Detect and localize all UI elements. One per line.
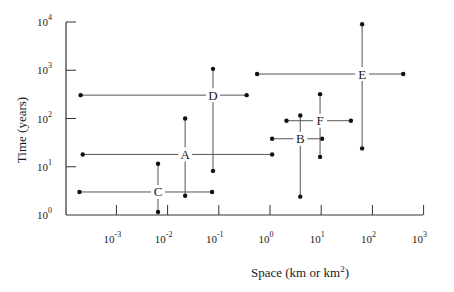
series-label: F: [316, 113, 323, 128]
series-f: F: [284, 92, 353, 159]
range-endpoint-dot: [284, 119, 288, 123]
series-a: A: [81, 116, 275, 198]
x-tick-label: 102: [361, 230, 376, 245]
range-endpoint-dot: [81, 152, 85, 156]
series-c: C: [77, 162, 214, 215]
x-tick-label: 101: [310, 230, 325, 245]
y-axis-label: Time (years): [14, 97, 30, 163]
x-axis-label: Space (km or km2): [251, 264, 349, 281]
range-endpoint-dot: [401, 72, 405, 76]
range-endpoint-dot: [298, 194, 302, 198]
range-endpoint-dot: [270, 152, 274, 156]
range-chart: 100101102103104 10-310-210-1100101102103…: [0, 0, 454, 292]
series-d: D: [78, 67, 248, 173]
range-endpoint-dot: [318, 92, 322, 96]
x-tick-label: 10-3: [104, 230, 122, 245]
axes: [66, 22, 423, 215]
data-series: ABCDEF: [77, 22, 405, 214]
x-tick-label: 10-2: [155, 230, 173, 245]
range-endpoint-dot: [211, 67, 215, 71]
range-endpoint-dot: [183, 194, 187, 198]
x-tick-label: 10-1: [206, 230, 224, 245]
range-endpoint-dot: [156, 210, 160, 214]
series-label: C: [154, 184, 163, 199]
range-endpoint-dot: [183, 116, 187, 120]
series-e: E: [255, 22, 406, 151]
y-ticks: 100101102103104: [37, 13, 76, 221]
y-tick-label: 101: [37, 158, 52, 173]
range-endpoint-dot: [156, 162, 160, 166]
range-endpoint-dot: [360, 22, 364, 26]
range-endpoint-dot: [318, 155, 322, 159]
range-endpoint-dot: [211, 169, 215, 173]
series-label: E: [358, 67, 366, 82]
x-ticks: 10-310-210-1100101102103: [104, 205, 428, 245]
range-endpoint-dot: [270, 137, 274, 141]
range-endpoint-dot: [298, 113, 302, 117]
range-endpoint-dot: [77, 190, 81, 194]
y-tick-label: 103: [37, 61, 52, 76]
x-tick-label: 100: [259, 230, 274, 245]
range-endpoint-dot: [255, 72, 259, 76]
series-label: A: [180, 147, 190, 162]
y-tick-label: 100: [37, 206, 52, 221]
x-tick-label: 103: [412, 230, 427, 245]
range-endpoint-dot: [210, 190, 214, 194]
range-endpoint-dot: [349, 119, 353, 123]
range-endpoint-dot: [78, 93, 82, 97]
series-label: B: [296, 131, 305, 146]
y-tick-label: 102: [37, 110, 52, 125]
y-tick-label: 104: [37, 13, 52, 28]
range-endpoint-dot: [360, 146, 364, 150]
series-label: D: [208, 88, 217, 103]
range-endpoint-dot: [244, 93, 248, 97]
